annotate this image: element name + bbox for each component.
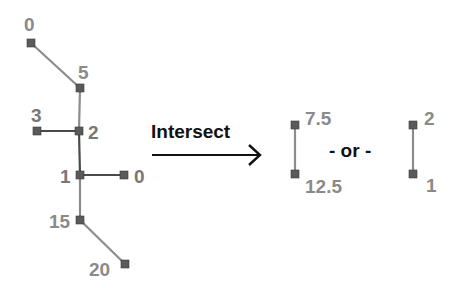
- node-2: [75, 127, 83, 135]
- operation-label: Intersect: [151, 121, 231, 142]
- result-a-top-label: 7.5: [305, 108, 332, 129]
- label-node-1: 1: [60, 166, 71, 187]
- node-0-top: [27, 39, 35, 47]
- result-a-node-top: [291, 121, 299, 129]
- separator-label: - or -: [329, 140, 371, 161]
- label-node-20: 20: [89, 259, 110, 280]
- node-15: [76, 216, 84, 224]
- result-b-top-label: 2: [424, 108, 435, 129]
- label-node-0-right: 0: [134, 166, 145, 187]
- edge-0-5: [31, 43, 80, 88]
- node-20: [121, 260, 129, 268]
- edge-15-20: [80, 220, 125, 264]
- label-node-0-top: 0: [24, 14, 35, 35]
- label-node-5: 5: [78, 62, 89, 83]
- node-3: [33, 127, 41, 135]
- node-5: [76, 84, 84, 92]
- edge-2-1: [79, 131, 80, 175]
- node-1: [76, 171, 84, 179]
- result-a-node-bottom: [291, 170, 299, 178]
- node-0-right: [120, 171, 128, 179]
- result-b-bottom-label: 1: [426, 175, 437, 196]
- arrow-icon: [152, 145, 260, 165]
- result-b-node-top: [409, 121, 417, 129]
- result-b-node-bottom: [409, 170, 417, 178]
- edge-5-2: [79, 88, 80, 131]
- intersect-diagram: 0 5 3 2 1 0 15 20 Intersect 7.5 12.5 - o…: [0, 0, 461, 288]
- result-b: 2 1: [409, 108, 437, 196]
- label-node-2: 2: [88, 122, 99, 143]
- result-a-bottom-label: 12.5: [305, 176, 342, 197]
- label-node-15: 15: [49, 211, 71, 232]
- label-node-3: 3: [31, 105, 42, 126]
